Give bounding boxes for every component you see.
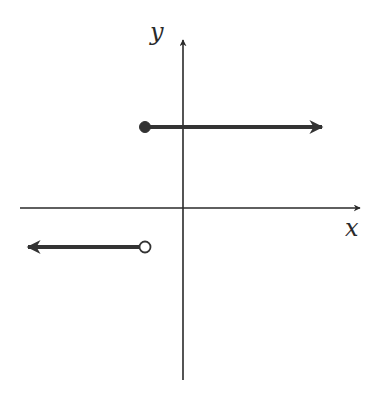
closed-endpoint-dot [140, 122, 151, 133]
y-axis-label: y [149, 18, 164, 46]
open-endpoint-circle [140, 242, 151, 253]
x-axis-label: x [345, 214, 359, 242]
function-graph: y x [0, 0, 377, 400]
